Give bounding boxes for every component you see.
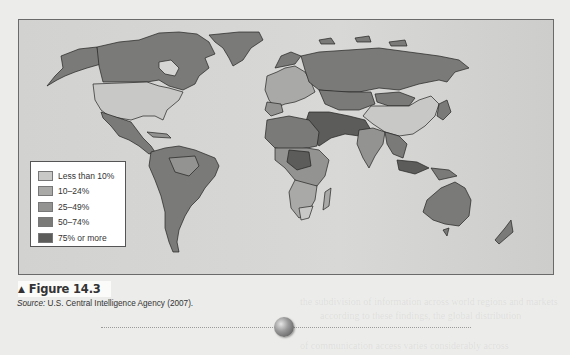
legend-item: 10–24% <box>38 184 125 200</box>
orb-icon <box>274 317 294 337</box>
region-india <box>357 128 385 168</box>
legend-item: Less than 10% <box>38 168 125 184</box>
legend-label: 50–74% <box>58 217 89 227</box>
legend-swatch <box>38 186 53 196</box>
legend-swatch <box>38 202 53 212</box>
legend-label: 10–24% <box>58 186 89 196</box>
region-alaska <box>47 47 101 86</box>
source-text: U.S. Central Intelligence Agency (2007). <box>45 299 193 308</box>
legend-label: Less than 10% <box>58 171 114 181</box>
figure-caption-label: ▲ Figure 14.3 <box>18 281 111 297</box>
source-prefix: Source: <box>17 299 45 308</box>
region-greenland <box>209 32 263 66</box>
figure-source: Source: U.S. Central Intelligence Agency… <box>17 299 193 308</box>
legend-item: 50–74% <box>38 215 125 231</box>
legend-label: 75% or more <box>58 233 107 243</box>
region-australia <box>423 182 471 226</box>
legend-item: 75% or more <box>38 230 125 246</box>
figure-number: Figure 14.3 <box>29 282 101 296</box>
legend-item: 25–49% <box>38 199 125 215</box>
legend-swatch <box>38 217 53 227</box>
legend-swatch <box>38 171 53 181</box>
legend-label: 25–49% <box>58 202 89 212</box>
region-russia <box>301 48 469 92</box>
map-legend: Less than 10% 10–24% 25–49% 50–74% 75% o… <box>30 161 126 247</box>
region-canada <box>97 32 215 90</box>
triangle-up-icon: ▲ <box>18 284 25 294</box>
world-map: Less than 10% 10–24% 25–49% 50–74% 75% o… <box>18 19 554 275</box>
legend-swatch <box>38 233 53 243</box>
